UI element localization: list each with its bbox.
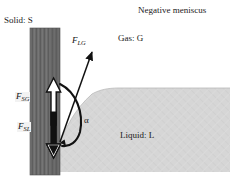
force-fsl-subscript: SL xyxy=(24,125,31,132)
label-gas: Gas: G xyxy=(118,34,143,43)
label-solid-text: Solid: S xyxy=(4,15,33,25)
label-force-fsg: FSG xyxy=(15,92,30,102)
diagram-canvas xyxy=(0,0,237,185)
label-liquid: Liquid: L xyxy=(120,131,154,140)
label-gas-text: Gas: G xyxy=(118,33,143,43)
label-contact-angle-text: α xyxy=(84,115,89,125)
label-negative-meniscus-text: Negative meniscus xyxy=(138,5,206,15)
label-liquid-text: Liquid: L xyxy=(120,130,154,140)
label-force-flg: FLG xyxy=(72,36,86,46)
force-flg-subscript: LG xyxy=(78,39,86,46)
label-solid: Solid: S xyxy=(4,16,33,25)
force-fsg-subscript: SG xyxy=(22,95,30,102)
label-negative-meniscus: Negative meniscus xyxy=(138,6,206,15)
meniscus-diagram: Solid: S Negative meniscus Gas: G Liquid… xyxy=(0,0,237,185)
label-force-fsl: FSL xyxy=(17,122,31,132)
label-contact-angle: α xyxy=(84,115,89,125)
